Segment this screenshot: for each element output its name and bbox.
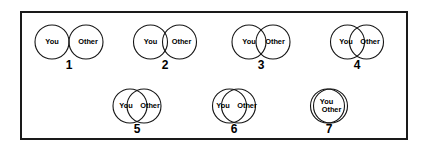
ios-scale-number-2: 2 bbox=[162, 58, 169, 72]
venn-labels-7: YouOther bbox=[317, 98, 341, 115]
other-label-6: Other bbox=[237, 102, 256, 110]
self-label-6: You bbox=[216, 102, 229, 110]
self-label-2: You bbox=[144, 38, 157, 46]
ios-scale-number-1: 1 bbox=[66, 58, 73, 72]
other-label-2: Other bbox=[172, 38, 191, 46]
other-label-4: Other bbox=[360, 38, 379, 46]
ios-scale-number-3: 3 bbox=[258, 58, 265, 72]
self-label-3: You bbox=[242, 38, 255, 46]
other-label-3: Other bbox=[265, 38, 284, 46]
self-label-4: You bbox=[339, 38, 352, 46]
other-label-7: Other bbox=[322, 106, 341, 114]
self-label-5: You bbox=[119, 102, 132, 110]
ios-scale-number-5: 5 bbox=[134, 122, 141, 136]
self-label-1: You bbox=[45, 38, 58, 46]
other-label-5: Other bbox=[140, 102, 159, 110]
ios-scale-frame: YouOther1YouOther2YouOther3YouOther4YouO… bbox=[20, 11, 408, 140]
ios-scale-number-7: 7 bbox=[326, 122, 333, 136]
ios-scale-number-6: 6 bbox=[231, 122, 238, 136]
ios-scale-number-4: 4 bbox=[354, 58, 361, 72]
other-label-1: Other bbox=[78, 38, 97, 46]
